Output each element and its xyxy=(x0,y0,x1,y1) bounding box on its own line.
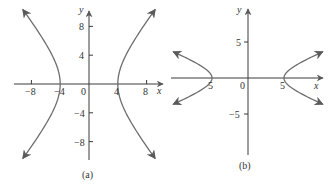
y-tick-label-a: 4 xyxy=(79,50,84,61)
y-tick-label-a: −4 xyxy=(74,108,85,119)
x-axis-label-a: x xyxy=(156,85,162,96)
figure: x y 0 −8 −4 4 8 8 4 −4 −8 (a) x y 0 5 5 … xyxy=(0,0,333,192)
x-tick-label-b: 5 xyxy=(280,80,285,91)
graph-b: x y 0 5 5 5 −5 (b) xyxy=(171,4,323,172)
x-tick-label-a: −8 xyxy=(25,86,36,97)
x-tick-label-a: 4 xyxy=(114,86,119,97)
x-tick-label-a: 8 xyxy=(143,86,148,97)
caption-b: (b) xyxy=(239,160,251,172)
y-tick-label-b: −5 xyxy=(229,109,240,120)
y-axis-label-b: y xyxy=(236,4,242,15)
caption-a: (a) xyxy=(82,169,93,181)
origin-label-a: 0 xyxy=(81,86,86,97)
y-tick-label-b: 5 xyxy=(236,37,241,48)
y-axis-label-a: y xyxy=(78,4,84,15)
x-tick-label-a: −4 xyxy=(54,86,65,97)
origin-label-b: 0 xyxy=(240,80,245,91)
graph-a: x y 0 −8 −4 4 8 8 4 −4 −8 (a) xyxy=(14,4,163,181)
y-tick-label-a: −8 xyxy=(74,137,85,148)
x-axis-label-b: x xyxy=(313,80,319,91)
x-tick-label-b: 5 xyxy=(208,80,213,91)
y-tick-label-a: 8 xyxy=(79,21,84,32)
